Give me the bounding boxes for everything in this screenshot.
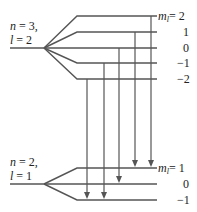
upper-ml-label-minus1: −1 xyxy=(177,56,190,70)
arrowhead-icon xyxy=(116,176,122,183)
energy-level-diagram: n = 3, l = 2 ml= 2 1 0 −1 −2 n = 2, l = … xyxy=(0,0,197,212)
arrowhead-icon xyxy=(84,192,90,199)
arrowhead-icon xyxy=(148,160,154,167)
arrowhead-icon xyxy=(132,160,138,167)
upper-ml-label-1: 1 xyxy=(183,25,189,39)
lower-l-label: l = 1 xyxy=(10,169,32,183)
upper-ml-label-2: ml= 2 xyxy=(158,9,185,24)
upper-ml-label-minus2: −2 xyxy=(177,72,190,86)
arrowhead-icon xyxy=(101,192,107,199)
lower-state-group: n = 2, l = 1 ml= 1 0 −1 xyxy=(10,155,190,207)
upper-ml-label-0: 0 xyxy=(183,41,189,55)
upper-state-group: n = 3, l = 2 ml= 2 1 0 −1 −2 xyxy=(10,9,190,86)
lower-ml-label-0: 0 xyxy=(183,177,189,191)
lower-n-label: n = 2, xyxy=(10,155,38,169)
upper-level-ml-1 xyxy=(44,32,157,48)
lower-level-ml-minus1 xyxy=(44,184,157,200)
upper-n-label: n = 3, xyxy=(10,19,38,33)
upper-level-ml-minus1 xyxy=(44,48,157,63)
transitions-group xyxy=(84,16,154,199)
upper-l-label: l = 2 xyxy=(10,33,32,47)
lower-ml-label-minus1: −1 xyxy=(177,193,190,207)
lower-ml-label-1: ml= 1 xyxy=(158,161,185,176)
lower-level-ml-1 xyxy=(44,168,157,184)
